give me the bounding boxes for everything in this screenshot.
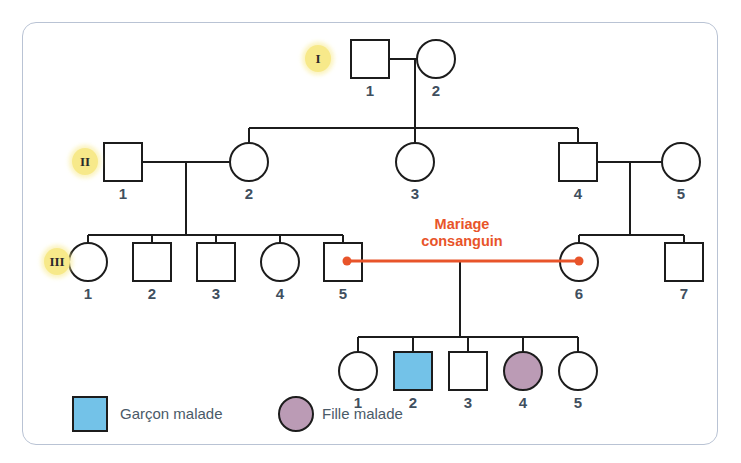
- generation-badge-2: II: [72, 148, 98, 175]
- label-I-2: 2: [416, 82, 456, 99]
- pedigree-figure: I II III 1 2 1 2 3 4 5 1 2 3 4 5 6 7 1 2…: [0, 0, 741, 463]
- label-III-5: 5: [323, 285, 363, 302]
- generation-badge-3: III: [44, 248, 70, 275]
- label-II-1: 1: [103, 185, 143, 202]
- consang-dot-right: [575, 257, 584, 266]
- consang-line-1: Mariage: [392, 216, 532, 233]
- symbol-IV-5-female[interactable]: [559, 352, 597, 390]
- label-IV-4: 4: [503, 394, 543, 411]
- legend-swatch-affected-girl: [279, 397, 313, 431]
- symbol-I-1-male[interactable]: [351, 40, 389, 78]
- consanguineous-annotation: Mariage consanguin: [392, 216, 532, 249]
- label-III-3: 3: [196, 285, 236, 302]
- symbol-II-3-female[interactable]: [396, 143, 434, 181]
- label-IV-5: 5: [558, 394, 598, 411]
- label-II-4: 4: [558, 185, 598, 202]
- symbol-III-4-female[interactable]: [261, 243, 299, 281]
- symbol-II-5-female[interactable]: [662, 143, 700, 181]
- symbol-IV-1-female[interactable]: [339, 352, 377, 390]
- symbol-II-2-female[interactable]: [230, 143, 268, 181]
- label-III-4: 4: [260, 285, 300, 302]
- symbol-III-2-male[interactable]: [133, 243, 171, 281]
- label-III-2: 2: [132, 285, 172, 302]
- consang-line-2: consanguin: [392, 233, 532, 250]
- label-IV-3: 3: [448, 394, 488, 411]
- label-II-3: 3: [395, 185, 435, 202]
- label-I-1: 1: [350, 82, 390, 99]
- symbol-III-7-male[interactable]: [665, 243, 703, 281]
- label-II-5: 5: [661, 185, 701, 202]
- symbol-IV-3-male[interactable]: [449, 352, 487, 390]
- label-II-2: 2: [229, 185, 269, 202]
- consang-dot-left: [343, 257, 352, 266]
- generation-badge-1: I: [305, 45, 331, 72]
- symbol-III-1-female[interactable]: [69, 243, 107, 281]
- legend-label-affected-girl: Fille malade: [322, 405, 403, 422]
- symbol-III-3-male[interactable]: [197, 243, 235, 281]
- label-III-1: 1: [68, 285, 108, 302]
- symbol-II-4-male[interactable]: [559, 143, 597, 181]
- legend-swatch-affected-boy: [73, 397, 107, 431]
- label-III-6: 6: [559, 285, 599, 302]
- legend-label-affected-boy: Garçon malade: [120, 405, 223, 422]
- consanguineous-marriage-line: [343, 257, 584, 266]
- symbol-IV-4-female-affected[interactable]: [504, 352, 542, 390]
- symbol-IV-2-male-affected[interactable]: [394, 352, 432, 390]
- symbol-II-1-male[interactable]: [104, 143, 142, 181]
- label-III-7: 7: [664, 285, 704, 302]
- symbol-I-2-female[interactable]: [417, 40, 455, 78]
